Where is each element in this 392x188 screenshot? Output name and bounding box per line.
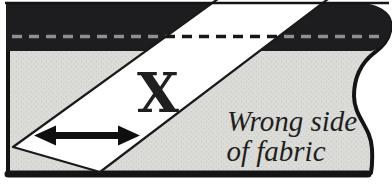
diagram-canvas: X Wrong side of fabric: [0, 0, 392, 188]
fabric-side-label-line1: Wrong side: [227, 105, 357, 137]
fabric-side-label-line2: of fabric: [226, 135, 325, 167]
bias-strip-diagram: X Wrong side of fabric: [0, 0, 392, 188]
strip-label: X: [137, 61, 179, 125]
